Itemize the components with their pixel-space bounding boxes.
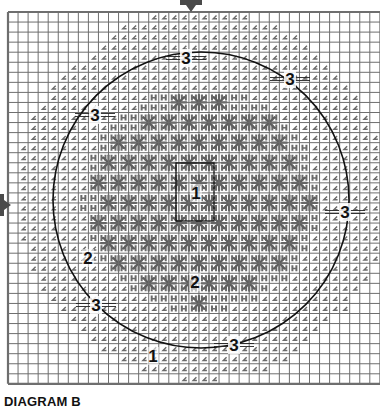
region-label-2: 2 <box>190 273 199 292</box>
region-label-3: 3 <box>90 106 99 125</box>
region-label-3: 3 <box>91 296 100 315</box>
top-center-arrow-icon <box>180 0 202 12</box>
region-label-1: 1 <box>148 347 157 366</box>
region-label-3: 3 <box>229 336 238 355</box>
region-label-3: 3 <box>285 70 294 89</box>
region-label-2: 2 <box>83 249 92 268</box>
region-label-1: 1 <box>191 184 200 203</box>
region-label-3: 3 <box>181 49 190 68</box>
diagram-caption: DIAGRAM B <box>4 394 81 407</box>
region-label-3: 3 <box>340 203 349 222</box>
stitch-diagram: 3333332211 <box>0 0 380 407</box>
